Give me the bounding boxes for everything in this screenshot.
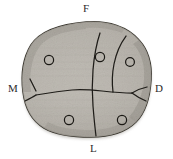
specimen-drawing xyxy=(0,0,173,159)
specimen-figure: F M D L xyxy=(0,0,173,159)
orientation-label-lingual: L xyxy=(90,143,97,154)
orientation-label-mesial: M xyxy=(8,83,18,94)
orientation-label-facial: F xyxy=(83,3,89,14)
orientation-label-distal: D xyxy=(155,83,163,94)
